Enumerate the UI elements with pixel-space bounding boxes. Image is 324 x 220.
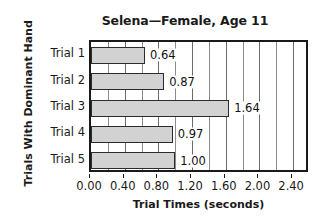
bar[interactable] bbox=[91, 73, 164, 90]
bar-chart: Selena—Female, Age 11 Trials With Domina… bbox=[0, 0, 324, 220]
x-tick-mark bbox=[190, 174, 191, 178]
x-tick-mark bbox=[89, 174, 90, 178]
x-tick-mark bbox=[224, 174, 225, 178]
x-tick-mark bbox=[123, 174, 124, 178]
category-label: Trial 1 bbox=[5, 46, 89, 60]
x-tick-mark bbox=[291, 174, 292, 178]
bar[interactable] bbox=[91, 47, 145, 64]
bar[interactable] bbox=[91, 126, 173, 143]
x-tick-mark bbox=[257, 174, 258, 178]
plot-area: 0.640.871.640.971.00 bbox=[89, 40, 308, 172]
bar-row[interactable]: 0.97 bbox=[91, 126, 310, 143]
x-tick-label: 2.00 bbox=[245, 179, 271, 193]
x-axis-title: Trial Times (seconds) bbox=[89, 198, 308, 211]
y-axis-tick-labels: Trial 1Trial 2Trial 3Trial 4Trial 5 bbox=[0, 40, 89, 172]
x-axis-tick-labels: 0.000.400.801.201.602.002.40 bbox=[0, 174, 324, 192]
bar-value-label: 0.97 bbox=[177, 128, 205, 141]
bar-row[interactable]: 0.64 bbox=[91, 47, 310, 64]
plot-inner: 0.640.871.640.971.00 bbox=[91, 42, 306, 170]
x-tick-label: 0.80 bbox=[144, 179, 170, 193]
bar-row[interactable]: 1.64 bbox=[91, 100, 310, 117]
x-tick-label: 1.20 bbox=[177, 179, 203, 193]
category-label: Trial 2 bbox=[5, 73, 89, 87]
x-tick-label: 0.00 bbox=[76, 179, 102, 193]
bar-row[interactable]: 0.87 bbox=[91, 73, 310, 90]
x-tick-label: 2.40 bbox=[278, 179, 304, 193]
bar-value-label: 1.00 bbox=[179, 154, 207, 167]
category-label: Trial 5 bbox=[5, 152, 89, 166]
bar-value-label: 0.64 bbox=[149, 49, 177, 62]
bar-value-label: 0.87 bbox=[168, 75, 196, 88]
category-label: Trial 3 bbox=[5, 99, 89, 113]
bar[interactable] bbox=[91, 100, 229, 117]
x-tick-mark bbox=[156, 174, 157, 178]
category-label: Trial 4 bbox=[5, 125, 89, 139]
bar[interactable] bbox=[91, 152, 175, 169]
bar-row[interactable]: 1.00 bbox=[91, 152, 310, 169]
chart-title: Selena—Female, Age 11 bbox=[60, 13, 310, 28]
bar-value-label: 1.64 bbox=[233, 102, 261, 115]
x-tick-label: 0.40 bbox=[110, 179, 136, 193]
x-tick-label: 1.60 bbox=[211, 179, 237, 193]
